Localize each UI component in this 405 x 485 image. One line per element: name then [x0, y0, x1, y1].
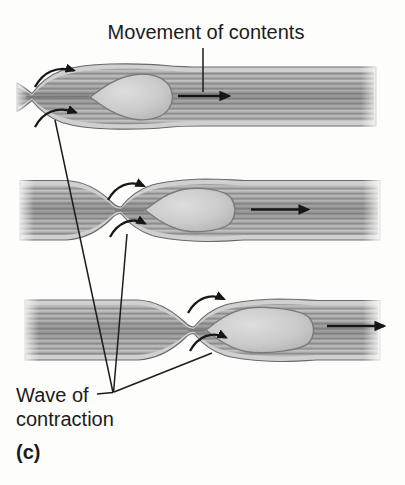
tube-end-fade: [21, 296, 39, 364]
tube-stage-2: [16, 176, 383, 244]
tube-end-fade: [12, 62, 28, 132]
movement-of-contents-label: Movement of contents: [100, 21, 312, 44]
tube-end-fade: [16, 176, 34, 244]
wave-label-line1: Wave of: [16, 384, 89, 406]
wave-of-contraction-label: Wave of contraction: [16, 383, 114, 431]
tube-end-fade: [361, 62, 381, 130]
peristalsis-diagram: Movement of contents Wave of contraction…: [0, 0, 405, 485]
panel-letter: (c): [16, 441, 40, 464]
tube-stage-3: [21, 296, 384, 364]
tube-end-fade: [363, 296, 383, 364]
wave-label-line2: contraction: [16, 408, 114, 430]
tube-stage-1: [12, 62, 381, 132]
tube-end-fade: [363, 176, 383, 244]
